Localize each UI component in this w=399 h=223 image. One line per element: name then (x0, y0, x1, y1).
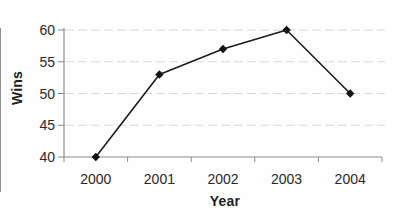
plot-area: 404550556020002001200220032004 (0, 0, 399, 223)
y-tick-label-50: 50 (39, 86, 55, 102)
x-tick-label-2000: 2000 (80, 171, 111, 187)
x-tick-label-2001: 2001 (144, 171, 175, 187)
y-tick-label-55: 55 (39, 54, 55, 70)
x-tick-label-2004: 2004 (335, 171, 366, 187)
x-tick-label-2002: 2002 (207, 171, 238, 187)
data-point-2002-57 (219, 45, 227, 53)
x-tick-label-2003: 2003 (271, 171, 302, 187)
y-axis-title: Wins (9, 71, 25, 105)
wins-by-year-line-chart: 404550556020002001200220032004 Wins Year (0, 0, 399, 223)
y-tick-label-45: 45 (39, 117, 55, 133)
x-axis-title: Year (210, 193, 240, 209)
y-tick-label-60: 60 (39, 22, 55, 38)
y-tick-label-40: 40 (39, 149, 55, 165)
